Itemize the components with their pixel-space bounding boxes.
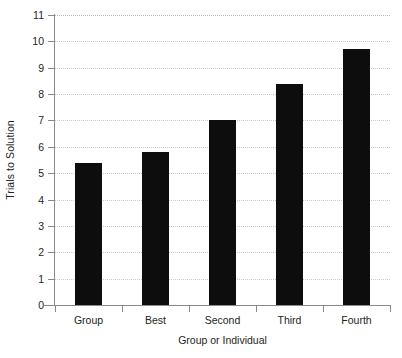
y-tick-mark (48, 252, 55, 253)
x-axis-line (44, 305, 391, 306)
y-tick-label: 5 (0, 168, 44, 178)
y-tick-label: 4 (0, 195, 44, 205)
x-axis-title: Group or Individual (55, 334, 390, 347)
y-tick-mark (48, 226, 55, 227)
y-tick-label: 1 (0, 274, 44, 284)
bar-chart: Trials to Solution 01234567891011 GroupB… (0, 0, 402, 358)
bar-fourth (343, 49, 370, 305)
x-tick-label: Second (189, 314, 256, 327)
y-tick-mark (48, 41, 55, 42)
y-tick-label: 9 (0, 63, 44, 73)
y-tick-label: 2 (0, 247, 44, 257)
y-tick-mark (48, 279, 55, 280)
y-tick-mark (48, 305, 55, 306)
y-tick-label: 0 (0, 300, 44, 310)
x-tick-mark (55, 306, 56, 312)
y-tick-mark (48, 173, 55, 174)
y-tick-label: 7 (0, 115, 44, 125)
bar-group (75, 163, 102, 305)
y-tick-mark (48, 147, 55, 148)
y-tick-mark (48, 120, 55, 121)
y-tick-label: 8 (0, 89, 44, 99)
y-tick-mark (48, 68, 55, 69)
y-tick-label: 11 (0, 10, 44, 20)
y-tick-label: 6 (0, 142, 44, 152)
x-tick-label: Best (122, 314, 189, 327)
x-tick-mark (189, 306, 190, 312)
x-tick-mark (256, 306, 257, 312)
gridline (55, 41, 390, 43)
y-tick-label: 10 (0, 36, 44, 46)
y-axis-title: Trials to Solution (2, 15, 18, 305)
x-tick-label: Fourth (323, 314, 390, 327)
x-tick-mark (390, 306, 391, 312)
gridline (55, 68, 390, 70)
bar-third (276, 84, 303, 305)
bar-best (142, 152, 169, 305)
x-tick-label: Group (55, 314, 122, 327)
y-tick-mark (48, 200, 55, 201)
x-tick-label: Third (256, 314, 323, 327)
y-tick-mark (48, 94, 55, 95)
x-tick-mark (323, 306, 324, 312)
y-tick-label: 3 (0, 221, 44, 231)
gridline (55, 94, 390, 96)
bar-second (209, 120, 236, 305)
y-axis-line (54, 14, 55, 306)
gridline (55, 15, 390, 17)
x-tick-mark (122, 306, 123, 312)
y-tick-mark (48, 15, 55, 16)
